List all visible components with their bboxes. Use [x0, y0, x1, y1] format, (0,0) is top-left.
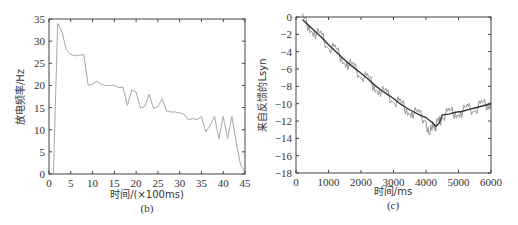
x-tick-label: 30	[174, 177, 186, 189]
y-tick-label: 0	[40, 168, 46, 180]
y-tick-label: 30	[34, 35, 46, 47]
y-tick-label: 0	[287, 11, 293, 23]
panel-c-ylabel: 来自反馈的Lsyn	[256, 58, 268, 131]
x-tick-label: 45	[240, 177, 252, 189]
panel-c-caption: (c)	[387, 199, 400, 212]
y-tick-label: 10	[34, 124, 46, 136]
chart-panel-c: 01000200030004000500060000−2−4−6−8−10−12…	[256, 11, 503, 212]
y-tick-label: 25	[34, 57, 46, 69]
x-tick-label: 2000	[350, 176, 373, 188]
x-tick-label: 5	[68, 177, 74, 189]
x-tick-label: 0	[293, 176, 299, 188]
y-tick-label: 35	[34, 13, 46, 25]
x-tick-label: 1000	[318, 176, 341, 188]
x-tick-label: 35	[196, 177, 208, 189]
chart-panel-b: 05101520253035404505101520253035 时间/(×10…	[14, 13, 251, 215]
panel-b-xlabel: 时间/(×100ms)	[110, 188, 184, 200]
y-tick-label: 15	[34, 102, 46, 114]
x-tick-label: 20	[131, 177, 143, 189]
y-tick-label: −4	[280, 46, 292, 58]
panel-b-frame	[49, 19, 245, 174]
x-tick-label: 5000	[448, 176, 471, 188]
figure-canvas: 05101520253035404505101520253035 时间/(×10…	[0, 0, 518, 225]
y-tick-label: −2	[280, 28, 292, 40]
y-tick-label: −18	[275, 167, 293, 179]
x-tick-label: 10	[87, 177, 99, 189]
y-tick-label: 20	[34, 79, 46, 91]
y-tick-label: 5	[40, 146, 46, 158]
y-tick-label: −8	[280, 80, 292, 92]
panel-b-ticks: 05101520253035404505101520253035	[34, 13, 251, 189]
x-tick-label: 40	[218, 177, 230, 189]
panel-c-xlabel: 时间/ms	[374, 185, 412, 197]
x-tick-label: 0	[46, 177, 52, 189]
y-tick-label: −14	[275, 132, 293, 144]
y-tick-label: −6	[280, 63, 292, 75]
x-tick-label: 6000	[480, 176, 503, 188]
panel-b-series	[53, 23, 245, 174]
series-line	[53, 23, 245, 174]
series-line	[303, 14, 492, 135]
x-tick-label: 15	[109, 177, 121, 189]
panel-b-ylabel: 放电频率/Hz	[14, 69, 26, 125]
x-tick-label: 25	[152, 177, 164, 189]
y-tick-label: −12	[275, 115, 292, 127]
panel-b-caption: (b)	[141, 202, 154, 215]
panel-c-ticks: 01000200030004000500060000−2−4−6−8−10−12…	[275, 11, 503, 188]
y-tick-label: −16	[275, 150, 293, 162]
x-tick-label: 4000	[415, 176, 438, 188]
panel-c-series	[303, 14, 492, 135]
y-tick-label: −10	[275, 98, 293, 110]
